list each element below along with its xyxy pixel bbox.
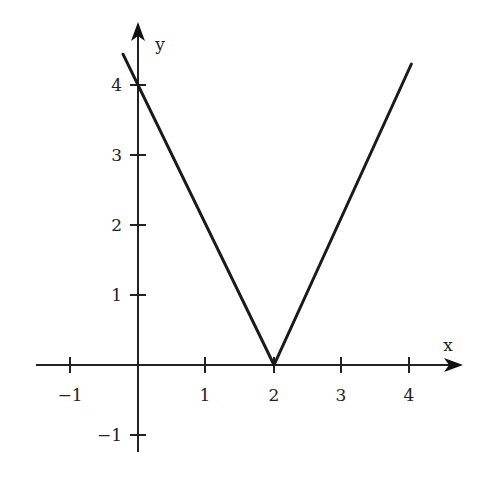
chart-container: −1 1 2 3 4 4 3 2 1 −1 x y: [0, 0, 483, 478]
y-tick-label: 2: [111, 215, 122, 235]
x-tick-label: −1: [57, 385, 82, 405]
series-line: [123, 54, 411, 365]
x-axis-label: x: [443, 335, 453, 355]
x-tick-label: 3: [336, 385, 347, 405]
v-graph-plot: −1 1 2 3 4 4 3 2 1 −1 x y: [0, 0, 483, 478]
y-tick-label: 4: [111, 75, 122, 95]
x-tick-label: 1: [200, 385, 211, 405]
x-tick-label: 2: [269, 385, 280, 405]
y-tick-label: 1: [111, 285, 122, 305]
y-tick-label: −1: [97, 425, 122, 445]
y-axis-label: y: [154, 34, 165, 54]
x-tick-label: 4: [404, 385, 415, 405]
y-tick-label: 3: [111, 145, 122, 165]
